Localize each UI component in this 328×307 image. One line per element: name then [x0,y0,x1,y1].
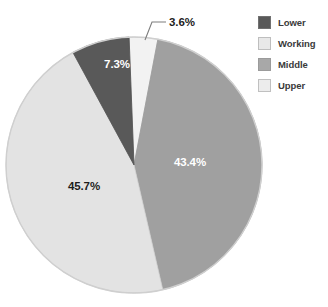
legend-swatch-middle [258,58,271,71]
legend-label-upper: Upper [278,80,305,91]
legend-item-upper[interactable]: Upper [258,75,328,96]
legend-item-lower[interactable]: Lower [258,12,328,33]
slice-label-middle: 43.4% [174,156,206,168]
legend-label-lower: Lower [278,17,306,28]
legend-label-working: Working [278,38,315,49]
legend-swatch-lower [258,16,271,29]
legend-label-middle: Middle [278,59,308,70]
slice-label-working: 45.7% [68,180,100,192]
slice-label-upper: 3.6% [169,16,195,28]
slice-label-lower: 7.3% [104,58,130,70]
legend-swatch-upper [258,79,271,92]
legend-swatch-working [258,37,271,50]
pie-chart-figure: 3.6% 43.4% 45.7% 7.3% Lower Working Midd… [0,0,328,307]
legend-item-middle[interactable]: Middle [258,54,328,75]
chart-legend: Lower Working Middle Upper [258,12,328,96]
legend-item-working[interactable]: Working [258,33,328,54]
